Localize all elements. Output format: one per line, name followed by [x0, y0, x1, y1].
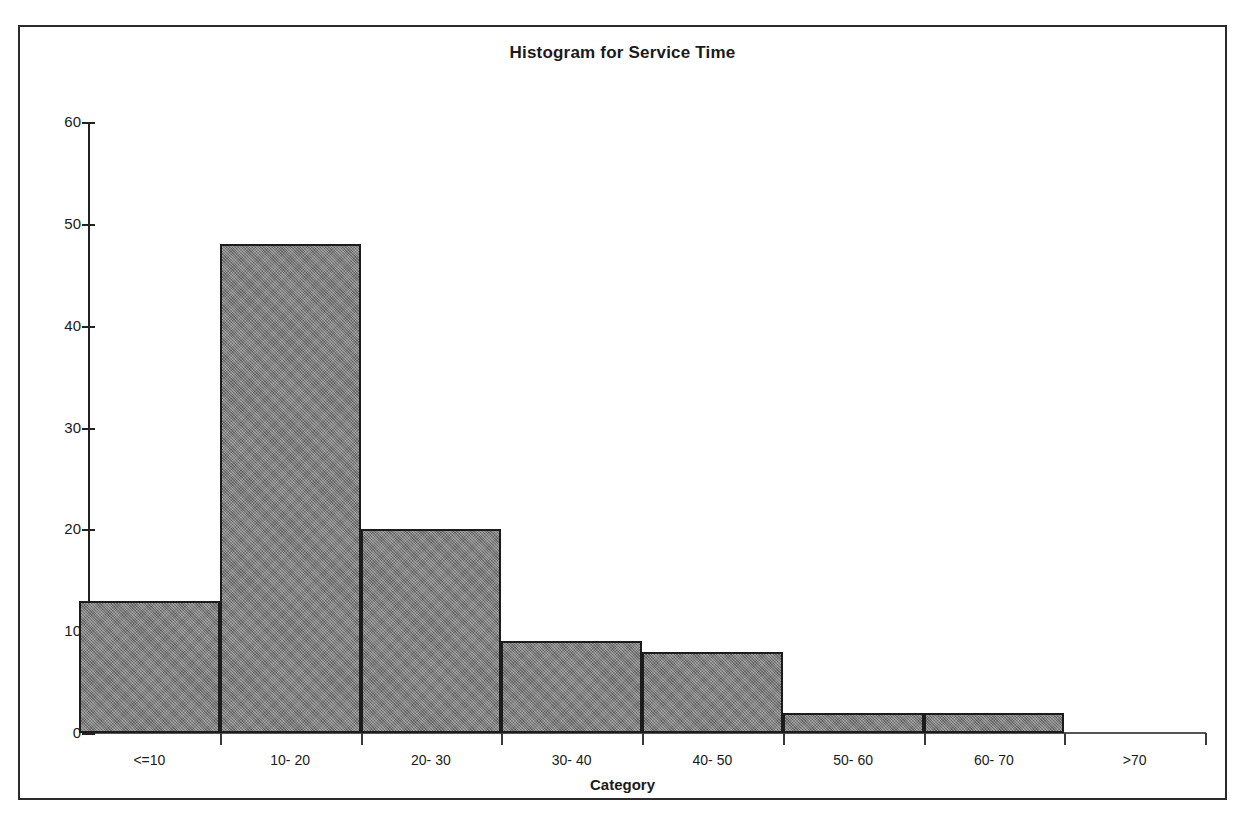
x-axis-title: Category: [0, 776, 1245, 793]
x-axis-tick: [783, 733, 785, 745]
y-axis-tick-label: 20: [21, 520, 81, 537]
y-axis-tick-label: 0: [21, 724, 81, 741]
x-axis-tick: [924, 733, 926, 745]
x-axis-tick: [501, 733, 503, 745]
y-axis-tick: [82, 122, 95, 124]
y-axis-tick-label: 30: [21, 419, 81, 436]
x-axis-tick-label: 10- 20: [270, 752, 310, 768]
y-axis-tick: [82, 428, 95, 430]
y-axis-tick-label: 60: [21, 113, 81, 130]
figure-page: Histogram for Service Time 0102030405060…: [0, 0, 1245, 819]
histogram-bar: [924, 713, 1065, 733]
x-axis-tick-label: 50- 60: [833, 752, 873, 768]
y-axis-tick: [82, 326, 95, 328]
histogram-bar: [79, 601, 220, 733]
y-axis-tick-label: 10: [21, 622, 81, 639]
x-axis-tick-label: 40- 50: [693, 752, 733, 768]
histogram-bar: [361, 529, 502, 733]
y-axis-tick-label: 50: [21, 215, 81, 232]
y-axis-tick: [82, 733, 95, 735]
histogram-bar: [642, 652, 783, 733]
x-axis-tick: [361, 733, 363, 745]
x-axis-tick: [1064, 733, 1066, 745]
x-axis-tick-label: 30- 40: [552, 752, 592, 768]
x-axis-tick-label: <=10: [133, 752, 165, 768]
x-axis-tick-label: 60- 70: [974, 752, 1014, 768]
x-axis-tick: [642, 733, 644, 745]
histogram-bar: [783, 713, 924, 733]
y-axis-tick: [82, 224, 95, 226]
x-axis-tick-label: 20- 30: [411, 752, 451, 768]
y-axis-tick-label: 40: [21, 317, 81, 334]
x-axis-tick: [220, 733, 222, 745]
x-axis-tick: [1205, 733, 1207, 745]
histogram-bar: [220, 244, 361, 733]
histogram-plot-area: 0102030405060 <=1010- 2020- 3030- 4040- …: [0, 0, 1245, 819]
y-axis-tick: [82, 529, 95, 531]
x-axis-tick-label: >70: [1123, 752, 1147, 768]
histogram-bar: [501, 641, 642, 733]
